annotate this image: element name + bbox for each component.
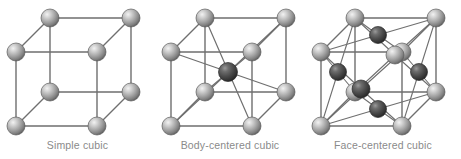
face-centered-cubic-diagram: Face-centered cubic — [305, 0, 461, 159]
simple-cubic-lattice-svg — [0, 0, 155, 140]
atom-corner — [312, 117, 330, 135]
atom-face-center-front — [352, 80, 370, 98]
atom-corner — [243, 117, 261, 135]
atom-face-center — [330, 64, 347, 81]
atom-corner — [41, 83, 59, 101]
atom-corner — [277, 9, 295, 27]
atom-corner — [88, 117, 106, 135]
atom-corner — [162, 117, 180, 135]
atom-corner — [196, 83, 214, 101]
simple-cubic-diagram: Simple cubic — [0, 0, 155, 159]
atom-corner — [41, 9, 59, 27]
crystal-structures-figure: Simple cubic — [0, 0, 461, 159]
atom-body-center — [219, 63, 238, 82]
atom-face-center — [370, 101, 387, 118]
simple-cubic-caption: Simple cubic — [0, 139, 155, 151]
simple-cubic-atoms — [7, 9, 140, 135]
atom-face-center-back — [386, 46, 404, 64]
atom-corner — [427, 83, 445, 101]
face-centered-cubic-caption: Face-centered cubic — [305, 139, 461, 151]
atom-corner — [196, 9, 214, 27]
atom-corner — [393, 117, 411, 135]
atom-corner — [243, 43, 261, 61]
atom-corner — [277, 83, 295, 101]
atom-corner — [88, 43, 106, 61]
atom-corner — [346, 9, 364, 27]
atom-corner — [7, 43, 25, 61]
simple-cubic-edges — [16, 18, 131, 126]
atom-corner — [312, 43, 330, 61]
atom-corner — [122, 83, 140, 101]
atom-corner — [7, 117, 25, 135]
atom-corner — [427, 9, 445, 27]
body-centered-cubic-diagram: Body-centered cubic — [155, 0, 305, 159]
face-centered-cubic-lattice-svg — [305, 0, 461, 140]
body-centered-cubic-caption: Body-centered cubic — [155, 139, 305, 151]
atom-face-center — [370, 27, 387, 44]
atom-face-center — [411, 64, 428, 81]
atom-corner — [122, 9, 140, 27]
atom-corner — [162, 43, 180, 61]
body-centered-cubic-lattice-svg — [155, 0, 305, 140]
